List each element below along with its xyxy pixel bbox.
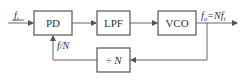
- pll-diagram: fi PD LPF VCO fo=Nfi ÷ N f/N: [0, 0, 250, 80]
- input-label: fi: [14, 10, 19, 23]
- divider-label: ÷ N: [105, 54, 122, 66]
- output-label: fo=Nfi: [201, 10, 225, 23]
- feedback-label: f/N: [57, 40, 71, 51]
- lpf-label: LPF: [104, 17, 123, 29]
- vco-label: VCO: [165, 17, 188, 29]
- pd-label: PD: [46, 17, 60, 29]
